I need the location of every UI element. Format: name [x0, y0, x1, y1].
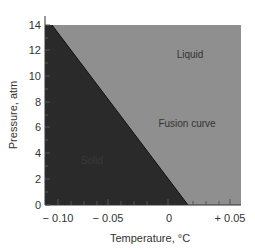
phase-diagram: 0 2 4 6 8 10 12 14 − 0.10 − 0.05 0 + 0.0… — [0, 0, 255, 252]
x-tick-label: + 0.05 — [215, 212, 246, 224]
x-tick-label: − 0.10 — [43, 212, 74, 224]
solid-label: Solid — [81, 155, 103, 166]
y-tick-label: 8 — [35, 96, 41, 108]
y-tick-label: 14 — [29, 19, 41, 31]
y-tick-label: 6 — [35, 121, 41, 133]
y-tick-label: 0 — [35, 199, 41, 211]
y-axis-title: Pressure, atm — [7, 81, 19, 149]
y-tick-label: 12 — [29, 44, 41, 56]
liquid-label: Liquid — [177, 49, 204, 60]
fusion-curve-label: Fusion curve — [158, 118, 216, 129]
y-tick-label: 2 — [35, 173, 41, 185]
x-tick-label: 0 — [166, 212, 172, 224]
x-tick-label: − 0.05 — [93, 212, 124, 224]
x-axis-title: Temperature, °C — [110, 232, 190, 244]
y-tick-label: 4 — [35, 147, 41, 159]
y-tick-label: 10 — [29, 70, 41, 82]
